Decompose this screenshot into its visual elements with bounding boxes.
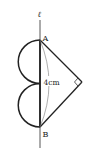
side-cb (40, 82, 82, 127)
geometry-figure: ℓ A B 4cm (0, 0, 90, 151)
upper-semicircle (18, 40, 40, 84)
lower-semicircle (18, 84, 40, 128)
point-a-label: A (42, 34, 49, 43)
length-label: 4cm (44, 78, 60, 87)
right-angle-marker (75, 78, 83, 86)
line-label-l: ℓ (38, 10, 42, 19)
point-b-label: B (43, 130, 49, 139)
